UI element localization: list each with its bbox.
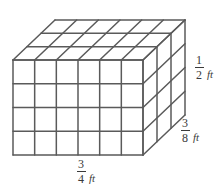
height-denominator: 2 (194, 69, 204, 81)
width-fraction: 3 4 (76, 158, 86, 184)
height-unit: ft (207, 68, 213, 81)
right-face-grid (143, 20, 185, 155)
width-unit: ft (89, 172, 95, 184)
depth-numerator: 3 (180, 117, 190, 129)
width-dimension-label: 3 4 ft (76, 158, 95, 184)
height-fraction: 1 2 (194, 54, 204, 81)
depth-dimension-label: 3 8 ft (180, 117, 199, 144)
depth-denominator: 8 (180, 132, 190, 144)
height-numerator: 1 (194, 54, 204, 66)
front-face-grid (13, 60, 143, 155)
prism-figure: 1 2 ft 3 8 ft 3 4 ft (0, 0, 223, 184)
rectangular-prism-drawing (0, 0, 223, 184)
width-numerator: 3 (76, 158, 86, 170)
top-face-grid (13, 20, 185, 60)
height-dimension-label: 1 2 ft (194, 54, 213, 81)
depth-fraction: 3 8 (180, 117, 190, 144)
depth-unit: ft (193, 131, 199, 144)
width-denominator: 4 (76, 173, 86, 184)
